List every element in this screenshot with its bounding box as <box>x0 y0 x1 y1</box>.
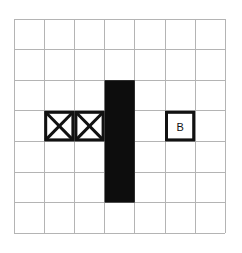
black-wall-bar-fill <box>105 80 135 202</box>
label-box-b: B <box>167 112 194 140</box>
figure-root: B <box>0 0 242 253</box>
label-box-b-text: B <box>176 121 183 133</box>
black-wall-bar <box>105 80 135 202</box>
cross-box-left <box>46 112 73 140</box>
grid-diagram-canvas: B <box>0 0 242 253</box>
cross-box-right <box>76 112 103 140</box>
